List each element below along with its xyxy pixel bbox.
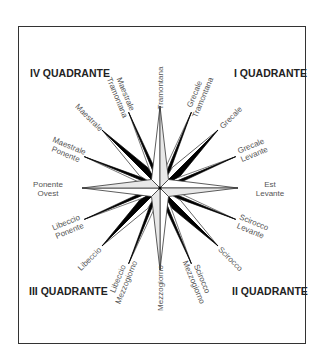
wind-label-libeccio-mezzogiorno: LibeccioMezzogiorno	[105, 255, 139, 305]
quadrant-label-iv: IV QUADRANTE	[30, 67, 110, 79]
wind-label-grecale-tramontana: GrecaleTramontana	[182, 72, 215, 119]
wind-label-line: Ponente	[33, 180, 63, 189]
quadrant-label-ii: II QUADRANTE	[232, 285, 308, 297]
wind-label-maestrale-ponente: MaestralePonente	[48, 135, 88, 165]
wind-label-grecale: Grecale	[218, 104, 245, 131]
wind-label-ponente-ovest: PonenteOvest	[33, 180, 63, 198]
wind-label-scirocco-levante: SciroccoLevante	[235, 213, 271, 242]
wind-label-line: Grecale	[218, 104, 245, 131]
quadrant-label-i: I QUADRANTE	[234, 67, 307, 79]
compass-rose	[82, 106, 238, 270]
quadrant-label-iii: III QUADRANTE	[29, 285, 108, 297]
wind-label-est-levante: EstLevante	[256, 180, 285, 198]
wind-label-line: Libeccio	[76, 245, 104, 273]
wind-label-libeccio-ponente: LibeccioPonente	[51, 213, 86, 241]
wind-label-line: Est	[264, 180, 276, 189]
wind-label-maestrale: Maestrale	[73, 102, 105, 134]
wind-label-line: Levante	[256, 189, 285, 198]
wind-label-line: Mezzogiorno	[156, 265, 165, 311]
wind-label-line: Ovest	[38, 189, 60, 198]
wind-label-scirocco: Scirocco	[216, 245, 244, 273]
wind-label-line: Scirocco	[216, 245, 244, 273]
compass-rose-diagram: TramontanaGrecaleTramontanaGrecaleGrecal…	[0, 0, 325, 363]
wind-label-libeccio: Libeccio	[76, 245, 104, 273]
wind-label-grecale-levante: GrecaleLevante	[236, 136, 270, 164]
wind-label-maestrale-tramontana: MaestraleTramontana	[105, 73, 138, 120]
wind-label-scirocco-mezzogiorno: SciroccoMezzogiorno	[181, 256, 215, 306]
wind-label-line: Tramontana	[156, 66, 165, 109]
wind-label-line: Maestrale	[73, 102, 105, 134]
wind-label-tramontana: Tramontana	[156, 66, 165, 109]
wind-label-mezzogiorno: Mezzogiorno	[156, 265, 165, 311]
